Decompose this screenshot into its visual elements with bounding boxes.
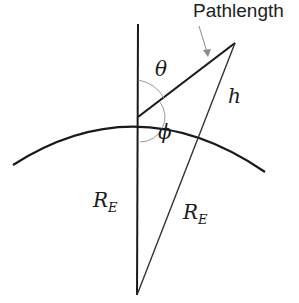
theta-label: θ: [155, 57, 167, 81]
theta-angle-arc: [138, 80, 164, 98]
phi-label: ϕ: [158, 120, 172, 144]
pathlength-label: Pathlength: [193, 0, 284, 22]
earth-surface-arc: [13, 127, 265, 172]
zenith-radius-line: [137, 24, 138, 295]
radius-left-sub: E: [108, 200, 118, 215]
radius-left-label: RE: [93, 188, 118, 212]
radius-left-base: R: [93, 188, 108, 212]
pathlength-arrow-shaft: [199, 26, 207, 52]
radius-right-sub: E: [198, 212, 208, 227]
earth-geometry-diagram: Pathlength θ ϕ h RE RE: [0, 0, 299, 303]
radius-right-base: R: [183, 200, 198, 224]
radius-right-label: RE: [183, 200, 208, 224]
h-label: h: [228, 84, 241, 108]
pathlength-arrow-head: [203, 49, 211, 57]
diagram-svg: [0, 0, 299, 303]
